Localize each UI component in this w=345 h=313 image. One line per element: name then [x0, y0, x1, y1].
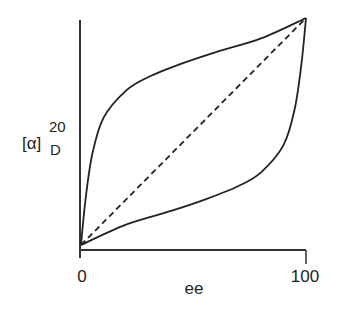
x-tick-label-100: 100	[291, 267, 319, 286]
y-axis-label-subscript: D	[50, 141, 61, 158]
series-diagonal	[81, 18, 306, 245]
x-tick-label-0: 0	[77, 267, 86, 286]
y-axis-label-superscript: 20	[49, 118, 66, 135]
x-axis-label: ee	[185, 279, 204, 298]
chart: 0 100 ee [α] 20 D	[0, 0, 345, 313]
y-axis-label: [α]	[22, 134, 41, 153]
